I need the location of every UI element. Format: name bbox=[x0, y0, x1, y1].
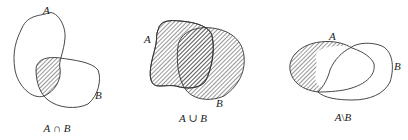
panel-union: A B A ∪ B bbox=[136, 0, 272, 140]
set-a-label: A bbox=[43, 5, 50, 16]
caption-operator: ∩ bbox=[50, 122, 63, 134]
set-a-label: A bbox=[144, 34, 151, 45]
caption-a: A bbox=[179, 112, 186, 124]
panel-difference: A B A\B bbox=[272, 0, 408, 140]
caption-b: B bbox=[64, 122, 71, 134]
caption-a: A bbox=[335, 111, 342, 123]
set-a-label: A bbox=[329, 31, 336, 42]
caption-operator: ∪ bbox=[186, 112, 201, 124]
set-b-label: B bbox=[394, 61, 401, 72]
caption-intersection: A ∩ B bbox=[44, 123, 71, 134]
caption-b: B bbox=[345, 111, 352, 123]
caption-difference: A\B bbox=[335, 112, 352, 123]
panel-intersection: A B A ∩ B bbox=[0, 0, 136, 140]
intersection-venn bbox=[0, 0, 136, 140]
caption-a: A bbox=[44, 122, 51, 134]
set-b-shaded bbox=[177, 28, 244, 100]
set-b-label: B bbox=[216, 98, 223, 109]
set-b-label: B bbox=[95, 90, 102, 101]
shaded-region-a-intersect-b bbox=[36, 58, 100, 108]
caption-union: A ∪ B bbox=[179, 113, 207, 124]
caption-b: B bbox=[200, 112, 207, 124]
